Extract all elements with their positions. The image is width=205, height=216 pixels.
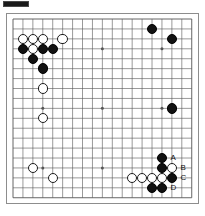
go-board[interactable]: ABCD (6, 13, 199, 204)
white-stone[interactable] (18, 34, 28, 44)
black-stone[interactable] (167, 34, 177, 44)
white-stone[interactable] (28, 44, 38, 54)
black-stone[interactable] (38, 44, 48, 54)
white-stone[interactable] (38, 83, 48, 93)
white-stone[interactable] (57, 34, 67, 44)
black-stone[interactable] (28, 54, 38, 64)
marker-label-a: A (170, 154, 175, 162)
black-stone[interactable] (38, 63, 48, 73)
white-stone[interactable] (38, 34, 48, 44)
go-diagram-app: ABCD (0, 0, 205, 216)
go-board-grid-area: ABCD (7, 14, 198, 203)
black-stone[interactable] (18, 44, 28, 54)
black-stone[interactable] (48, 44, 58, 54)
header-bar-fragment (3, 1, 29, 7)
marker-label-d: D (170, 184, 176, 192)
white-stone[interactable] (28, 34, 38, 44)
black-stone[interactable] (167, 103, 177, 113)
white-stone[interactable] (48, 173, 58, 183)
white-stone[interactable] (28, 163, 38, 173)
black-stone[interactable] (157, 183, 167, 193)
marker-label-b: B (180, 164, 185, 172)
marker-label-c: C (180, 174, 186, 182)
black-stone[interactable] (167, 173, 177, 183)
